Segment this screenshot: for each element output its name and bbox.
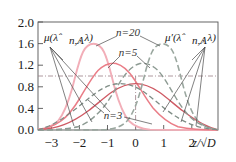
y-tick-label-1: 0.4 xyxy=(18,101,35,116)
x-tick-label-4: 1 xyxy=(160,135,167,150)
series-label-n3: n=3 xyxy=(104,109,123,121)
chart-canvas: 0.0 0.4 0.8 1.2 1.6 2.0 −3 −2 −1 0 1 2 z… xyxy=(0,0,236,162)
y-tick-label-5: 2.0 xyxy=(18,15,34,30)
x-axis-title: z/√D xyxy=(191,136,216,150)
figure-container: 0.0 0.4 0.8 1.2 1.6 2.0 −3 −2 −1 0 1 2 z… xyxy=(0,0,236,162)
x-tick-label-2: −1 xyxy=(101,135,115,150)
y-tick-label-4: 1.6 xyxy=(18,36,35,51)
x-tick-label-1: −2 xyxy=(72,135,86,150)
y-tick-label-2: 0.8 xyxy=(18,79,34,94)
y-tick-label-0: 0.0 xyxy=(18,122,34,137)
mu-prime-annotation-tail: , λ) xyxy=(202,31,216,44)
series-label-n20: n=20 xyxy=(116,26,140,38)
series-label-n5: n=5 xyxy=(119,46,138,58)
y-tick-label-3: 1.2 xyxy=(18,57,34,72)
mu-annotation-tail: , λ) xyxy=(79,31,93,44)
x-tick-label-0: −3 xyxy=(44,135,58,150)
x-tick-label-3: 0 xyxy=(132,135,139,150)
